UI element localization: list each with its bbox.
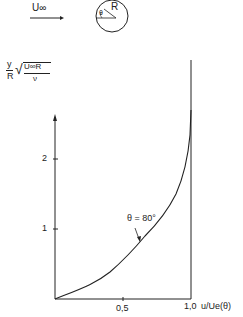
sqrt-num: U∞R	[24, 63, 41, 71]
figure-canvas	[0, 0, 243, 317]
arrow-head-icon	[60, 16, 64, 20]
sqrt-den: ν	[33, 75, 37, 83]
curve-annotation: θ = 80°	[127, 214, 156, 223]
radius-label: R	[111, 2, 118, 12]
freestream-label: U∞	[32, 3, 46, 13]
angle-label: θ	[99, 9, 103, 16]
sqrt-fraction-bar	[24, 73, 50, 74]
velocity-profile-curve	[55, 110, 191, 299]
y-tick-label-2: 2	[42, 154, 47, 163]
x-axis-label: u/Ue(θ)	[201, 302, 231, 311]
x-tick-label-10: 1,0	[184, 302, 197, 311]
sqrt-icon: √	[15, 62, 23, 76]
y-label-den: R	[7, 72, 14, 81]
x-tick-label-05: 0,5	[116, 304, 129, 313]
y-tick-label-1: 1	[42, 224, 47, 233]
y-axis-arrow-icon	[53, 114, 57, 121]
y-label-num: y	[7, 60, 12, 69]
